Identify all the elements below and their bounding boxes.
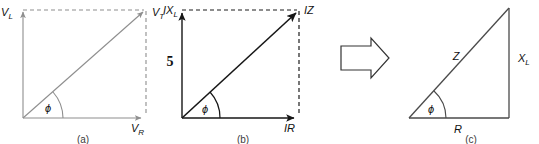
panel-c-caption: (c): [465, 134, 477, 144]
panel-c: Z XL R ϕ (c): [409, 8, 530, 144]
panel-a-angle-label: ϕ: [45, 102, 51, 114]
panel-b: IXL IZ IR ϕ (b): [163, 4, 315, 144]
panel-b-resultant-label: IZ: [304, 4, 315, 16]
panel-c-angle-arc: [434, 91, 446, 118]
panel-b-y-axis-label: IXL: [163, 4, 178, 19]
panel-c-hypotenuse-label: Z: [452, 50, 461, 62]
panel-a-angle-arc: [53, 92, 63, 118]
panel-b-resultant-vector: [182, 13, 296, 118]
panel-b-angle-label: ϕ: [202, 103, 208, 115]
figure-container: VL VT VR ϕ (a) 5 IXL IZ IR ϕ (b): [0, 0, 539, 144]
panel-b-angle-arc: [210, 92, 220, 118]
panel-a: VL VT VR ϕ (a): [1, 6, 165, 144]
panel-c-base-label: R: [454, 123, 462, 135]
page-number: 5: [167, 54, 174, 69]
panel-b-caption: (b): [237, 134, 249, 144]
panel-c-vertical-label: XL: [517, 52, 530, 67]
phasor-impedance-figure: VL VT VR ϕ (a) 5 IXL IZ IR ϕ (b): [0, 0, 539, 144]
panel-a-x-axis-label: VR: [131, 122, 144, 137]
panel-a-caption: (a): [77, 134, 89, 144]
panel-c-angle-label: ϕ: [428, 103, 434, 115]
panel-a-resultant-vector: [23, 12, 143, 118]
panel-c-hypotenuse-line: [409, 8, 509, 118]
panel-a-y-axis-label: VL: [1, 6, 13, 21]
panel-b-x-axis-label: IR: [284, 122, 295, 134]
block-right-arrow-icon: [341, 38, 389, 78]
